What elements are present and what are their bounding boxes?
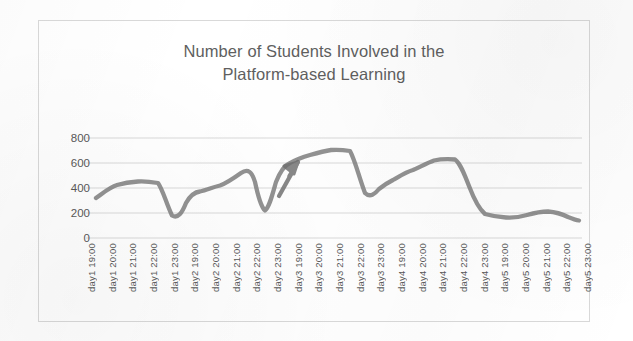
x-axis-tick-label: day4 19:00 [396, 243, 407, 292]
x-axis-tick-label: day1 20:00 [107, 243, 118, 292]
y-axis-tick-400: 400 [42, 182, 90, 194]
x-axis: day1 19:00day1 20:00day1 21:00day1 22:00… [86, 243, 582, 323]
x-axis-tick-label: day2 19:00 [189, 243, 200, 292]
x-axis-tick-label: day2 20:00 [210, 243, 221, 292]
x-axis-tick-label: day5 19:00 [499, 243, 510, 292]
x-axis-tick-label: day5 21:00 [541, 243, 552, 292]
x-axis-tick-label: day4 22:00 [458, 243, 469, 292]
x-axis-tick-label: day3 20:00 [313, 243, 324, 292]
y-axis-tick-600: 600 [42, 157, 90, 169]
data-series-line [96, 150, 579, 221]
x-axis-tick-label: day5 23:00 [582, 243, 593, 292]
x-axis-tick-label: day4 21:00 [437, 243, 448, 292]
x-axis-tick-label: day1 22:00 [148, 243, 159, 292]
x-axis-tick-label: day5 20:00 [520, 243, 531, 292]
y-axis: 800 600 400 200 0 [38, 0, 90, 341]
x-axis-tick-label: day1 19:00 [86, 243, 97, 292]
x-axis-tick-label: day2 23:00 [272, 243, 283, 292]
x-axis-tick-label: day3 23:00 [375, 243, 386, 292]
y-axis-tick-200: 200 [42, 207, 90, 219]
x-axis-tick-label: day1 23:00 [169, 243, 180, 292]
x-axis-tick-label: day2 21:00 [231, 243, 242, 292]
x-axis-tick-label: day3 19:00 [293, 243, 304, 292]
x-axis-tick-label: day4 20:00 [417, 243, 428, 292]
x-axis-tick-label: day3 21:00 [334, 243, 345, 292]
x-axis-tick-label: day5 22:00 [561, 243, 572, 292]
x-axis-tick-label: day1 21:00 [127, 243, 138, 292]
y-axis-tick-0: 0 [42, 232, 90, 244]
y-axis-tick-800: 800 [42, 132, 90, 144]
x-axis-tick-label: day2 22:00 [251, 243, 262, 292]
x-axis-tick-label: day3 22:00 [355, 243, 366, 292]
x-axis-tick-label: day4 23:00 [479, 243, 490, 292]
